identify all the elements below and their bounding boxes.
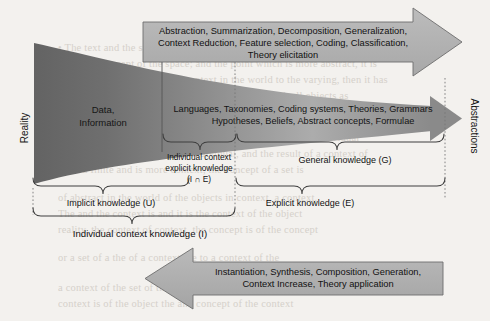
funnel-right-label-line1: Languages, Taxonomies, Coding systems, T…	[173, 104, 432, 114]
brace-label-implicit-knowledge: Implicit knowledge (U)	[67, 198, 156, 208]
brace-label-general-knowledge: General knowledge (G)	[298, 155, 391, 165]
axis-label-abstractions: Abstractions	[469, 98, 480, 153]
bottom-arrow-line2: Context Increase, Theory application	[242, 279, 393, 289]
axis-label-reality: Reality	[19, 113, 30, 144]
brace-implicit-knowledge	[33, 178, 189, 194]
brace-individual-context-knowledge	[33, 208, 235, 224]
diagram-figure: Data, Information Languages, Taxonomies,…	[0, 0, 490, 321]
funnel-left-label-line2: Information	[79, 117, 127, 128]
bottom-arrow-line1: Instantiation, Synthesis, Composition, G…	[215, 267, 421, 277]
top-arrow-line3: Theory elicitation	[248, 50, 318, 60]
brace-label-explicit-knowledge: Explicit knowledge (E)	[266, 198, 355, 208]
funnel-right-label-line2: Hypotheses, Beliefs, Abstract concepts, …	[212, 116, 415, 126]
brace-label-ice-line3: (I ∩ E)	[187, 174, 211, 184]
brace-label-ice-line2: explicit knowledge	[165, 163, 233, 173]
funnel-arrowhead-icon	[430, 96, 462, 141]
top-arrow-line1: Abstraction, Summarization, Decompositio…	[159, 26, 407, 36]
brace-label-individual-context-knowledge: Individual context knowledge (I)	[73, 228, 207, 239]
brace-explicit-knowledge	[236, 178, 445, 194]
brace-label-ice-line1: Individual context	[167, 152, 232, 162]
top-arrow-line2: Context Reduction, Feature selection, Co…	[158, 38, 408, 48]
funnel-left-label-line1: Data,	[92, 104, 115, 115]
